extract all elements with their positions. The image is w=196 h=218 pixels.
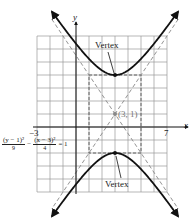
eq-denominator-2: 4 — [43, 145, 46, 151]
center-label: (3, 1) — [118, 110, 138, 119]
hyperbola-graph — [0, 0, 196, 218]
eq-numerator-2: (x − 3)² — [33, 137, 56, 145]
vertex-bottom-label: Vertex — [105, 180, 129, 189]
y-axis-label: y — [73, 13, 77, 22]
equation-term2: (x − 3)² 4 — [33, 137, 56, 151]
x-axis-label: x — [184, 121, 188, 130]
eq-denominator-1: 9 — [12, 145, 15, 151]
equation: (y − 1)² 9 − (x − 3)² 4 = 1 — [2, 137, 68, 151]
vertex-top-label: Vertex — [95, 41, 119, 50]
equation-term1: (y − 1)² 9 — [2, 137, 25, 151]
grid — [37, 36, 167, 192]
x-tick-max: 7 — [164, 129, 169, 138]
eq-numerator-1: (y − 1)² — [2, 137, 25, 145]
eq-rhs: = 1 — [58, 140, 67, 148]
eq-minus: − — [27, 140, 31, 148]
